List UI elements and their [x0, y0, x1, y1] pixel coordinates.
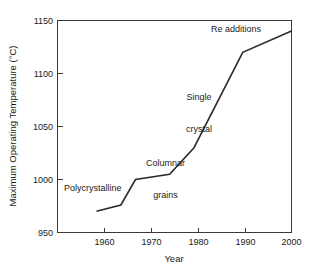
x-tick-label-2000: 2000: [281, 237, 301, 247]
y-axis-title: Maximum Operating Temperature (°C): [7, 46, 18, 207]
annotation-re-additions: Re additions: [211, 24, 261, 35]
x-tick-label-1970: 1970: [141, 237, 161, 247]
x-tick-label-1990: 1990: [235, 237, 255, 247]
annotation-single-line1: Single: [186, 92, 212, 103]
x-tick-label-1960: 1960: [94, 237, 114, 247]
annotation-single-crystal: Single crystal: [186, 71, 212, 155]
annotation-polycrystalline: Polycrystalline: [64, 183, 122, 194]
y-axis-ticks: [58, 21, 63, 233]
y-tick-label-1100: 1100: [34, 69, 53, 79]
chart-figure: 1150 1100 1050 1000 950 1960 1970 1980 1…: [0, 0, 321, 274]
annotation-columnar-grains: Columnar grains: [146, 137, 185, 221]
x-tick-label-1980: 1980: [188, 237, 208, 247]
y-tick-label-950: 950: [38, 228, 53, 238]
annotation-single-line2: crystal: [186, 124, 212, 135]
y-tick-label-1000: 1000: [33, 175, 53, 185]
annotation-columnar-line1: Columnar: [146, 158, 185, 169]
x-axis-ticks: [105, 228, 292, 233]
annotation-columnar-line2: grains: [146, 190, 185, 201]
x-axis-title: Year: [164, 253, 183, 264]
y-tick-label-1050: 1050: [33, 122, 53, 132]
y-tick-label-1150: 1150: [34, 16, 53, 26]
